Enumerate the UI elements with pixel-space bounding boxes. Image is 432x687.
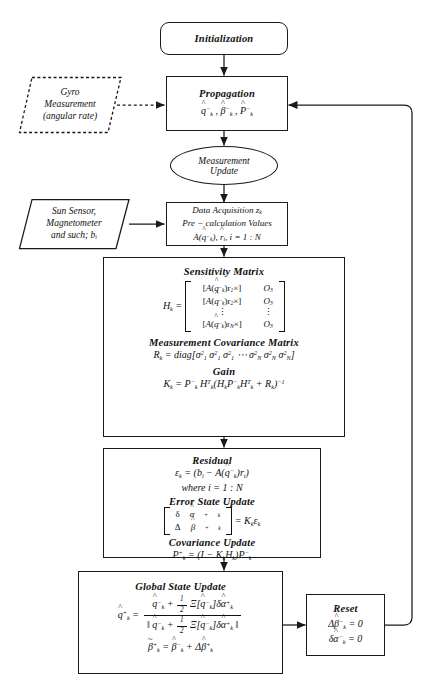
- covariance-update-equation: P+k = (I − KkHk)P−k: [172, 548, 251, 563]
- node-residual[interactable]: Residual εk = (bi − A(^q−k)ri) where i =…: [103, 448, 321, 558]
- initialization-label: Initialization: [195, 33, 254, 44]
- node-initialization[interactable]: Initialization: [160, 22, 288, 55]
- sensors-line-2: Magnetometer: [46, 218, 101, 230]
- covariance-update-title: Covariance Update: [169, 537, 256, 548]
- quaternion-lhs: ^q+k =: [118, 608, 139, 623]
- propagation-state: ^q−k , ^β−k , ^P−k: [201, 104, 253, 119]
- propagation-title: Propagation: [199, 88, 255, 99]
- covariance-matrix-title: Measurement Covariance Matrix: [149, 337, 299, 348]
- node-measurement-update[interactable]: Measurement Update: [170, 146, 278, 185]
- error-state-vector: δ^α+k Δ^β+k: [164, 507, 232, 535]
- node-global-state-update[interactable]: Global State Update ^q+k = ^q−k + 12 Ξ[^…: [78, 571, 283, 674]
- gain-title: Gain: [213, 366, 235, 377]
- measurement-update-line-1: Measurement: [198, 156, 249, 166]
- quaternion-fraction: ^q−k + 12 Ξ[^q−k]δ^α+k ‖ ^q−k + 12 Ξ[^q−…: [144, 596, 241, 635]
- matrix-row: [A(^q−k)r1×] O3: [194, 282, 276, 295]
- error-state-update-title: Error State Update: [169, 496, 255, 507]
- bracket-right: [279, 281, 285, 332]
- sensitivity-title: Sensitivity Matrix: [184, 266, 264, 277]
- gain-equation: Kk = P−k HTk(HkP−kHTk + Rk)−1: [163, 377, 284, 392]
- node-gyro-measurement[interactable]: Gyro Measurement (angular rate): [18, 76, 122, 134]
- global-state-bias-equation: ~β+k = ^β−k + Δ^β+k: [148, 640, 213, 655]
- node-propagation[interactable]: Propagation ^q−k , ^β−k , ^P−k: [166, 76, 288, 131]
- sensitivity-matrix-body: [A(^q−k)r1×] O3 [A(^q−k)r2×] O3 ⋮⋮ [A(^q…: [185, 281, 285, 332]
- covariance-matrix-equation: Rk = diag[σ21 σ21 σ21 ⋯ σ2N σ2N σ2N]: [153, 348, 294, 363]
- sensitivity-equation: Hk = [A(^q−k)r1×] O3 [A(^q−k)r2×] O3 ⋮⋮: [163, 281, 285, 332]
- data-acquisition-line-2: Pre − calculation Values: [182, 217, 271, 230]
- gyro-line-1: Gyro: [43, 87, 97, 99]
- gyro-line-2: Measurement: [43, 99, 97, 111]
- bracket-right: [226, 507, 232, 535]
- sensitivity-lhs: Hk =: [163, 299, 182, 314]
- data-acquisition-line-1: Data Acquisition zk: [192, 204, 261, 217]
- error-state-update-equation: δ^α+k Δ^β+k = Kkεk: [164, 507, 260, 535]
- measurement-update-line-2: Update: [210, 166, 238, 176]
- matrix-row: Δ^β+k: [175, 521, 221, 534]
- reset-equation-2: δ^α−k = 0: [329, 632, 363, 647]
- matrix-row: δ^α+k: [175, 508, 221, 521]
- node-data-acquisition[interactable]: Data Acquisition zk Pre − calculation Va…: [166, 202, 288, 246]
- node-reset[interactable]: Reset Δ^β−k = 0 δ^α−k = 0: [306, 594, 385, 656]
- fraction-denominator: ‖ ^q−k + 12 Ξ[^q−k]δ^α+k ‖: [144, 615, 241, 635]
- sensors-line-1: Sun Sensor,: [46, 206, 101, 218]
- residual-where: where i = 1 : N: [181, 481, 242, 496]
- flowchart-canvas: Initialization Gyro Measurement (angular…: [0, 0, 432, 687]
- residual-equation: εk = (bi − A(^q−k)ri): [175, 466, 249, 481]
- node-sensor-sources[interactable]: Sun Sensor, Magnetometer and such; bi: [18, 198, 130, 250]
- matrix-row: ⋮⋮: [194, 308, 276, 318]
- error-state-rhs: = Kkεk: [235, 514, 260, 529]
- sensors-line-3: and such; bi: [46, 230, 101, 242]
- matrix-row: [A(^q−k)rN×] O3: [194, 318, 276, 331]
- global-state-quaternion-equation: ^q+k = ^q−k + 12 Ξ[^q−k]δ^α+k ‖ ^q−k + 1…: [118, 596, 244, 635]
- global-state-update-title: Global State Update: [135, 581, 226, 592]
- node-sensitivity-matrix[interactable]: Sensitivity Matrix Hk = [A(^q−k)r1×] O3 …: [103, 257, 345, 437]
- data-acquisition-line-3: A(^q−k), ^ri, i = 1 : N: [193, 231, 260, 244]
- gyro-line-3: (angular rate): [43, 111, 97, 123]
